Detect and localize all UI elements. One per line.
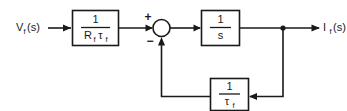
arrowhead-into-summing-junction xyxy=(146,25,154,32)
arrowhead-into-integrator-block xyxy=(194,25,202,32)
input-label-tail: (s) xyxy=(27,21,40,33)
output-label-main: I xyxy=(323,21,326,33)
summing-junction-circle xyxy=(153,20,170,37)
feedback-block-denominator-tau: τ xyxy=(225,95,230,107)
arrowhead-output xyxy=(312,24,321,31)
output-label-tail: (s) xyxy=(333,21,346,33)
feedback-block-numerator: 1 xyxy=(226,80,232,92)
gain-block-numerator: 1 xyxy=(92,13,98,25)
output-signal-label: I f (s) xyxy=(323,21,346,36)
gain-block-denominator-tau: τ xyxy=(98,29,103,41)
block-diagram-canvas: V f (s) 1 R f τ f + − xyxy=(0,0,347,111)
arrowhead-into-feedback-block xyxy=(249,93,257,100)
gain-block-denominator-R: R xyxy=(84,29,92,41)
gain-block[interactable]: 1 R f τ f xyxy=(73,11,119,46)
summing-junction-minus-sign: − xyxy=(146,34,153,48)
feedback-block[interactable]: 1 τ f xyxy=(211,79,249,111)
arrowhead-into-gain-block xyxy=(63,24,71,31)
integrator-block[interactable]: 1 s xyxy=(202,11,240,46)
wire-feedback-to-sum xyxy=(162,41,211,97)
integrator-block-numerator: 1 xyxy=(217,13,223,25)
integrator-block-denominator: s xyxy=(218,29,224,41)
summing-junction-plus-sign: + xyxy=(144,10,151,24)
wire-takeoff-to-feedback-block xyxy=(250,28,283,97)
arrowhead-into-summing-junction-minus xyxy=(158,37,165,46)
input-signal-label: V f (s) xyxy=(16,21,40,36)
block-diagram-svg: V f (s) 1 R f τ f + − xyxy=(0,0,347,111)
